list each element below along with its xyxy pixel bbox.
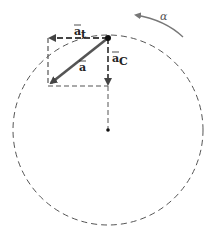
circular-motion-diagram: a t a a C α [0,0,216,238]
svg-text:a: a [79,61,86,74]
svg-text:C: C [119,55,128,68]
label-a-total: a [79,61,86,74]
label-alpha: α [160,10,168,23]
label-a-centripetal: a C [112,52,128,68]
particle-point [105,35,111,41]
center-point [106,128,110,132]
svg-text:t: t [81,28,87,41]
